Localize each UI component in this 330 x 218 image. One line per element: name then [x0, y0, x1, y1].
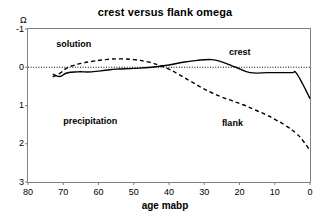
plot-frame	[28, 29, 311, 183]
x-axis-title: age mabp	[0, 200, 330, 211]
plot-area	[0, 0, 330, 218]
chart-container: crest versus flank omega Ω -10123 807060…	[0, 0, 330, 218]
series-line-crest	[53, 59, 310, 98]
